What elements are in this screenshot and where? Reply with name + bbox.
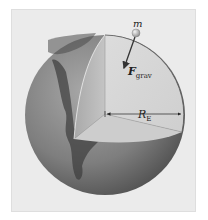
mass-label: m [133,18,142,29]
earth-diagram: m Fgrav RE [0,0,208,220]
mass-ball [132,29,140,37]
